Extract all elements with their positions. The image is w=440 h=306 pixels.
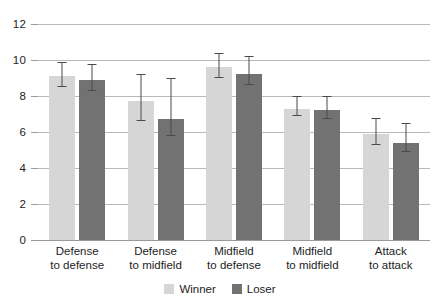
- error-bar: [297, 96, 298, 116]
- error-bar: [375, 118, 376, 145]
- y-axis-tick-mark-12: [31, 24, 38, 25]
- y-axis-tick-12: 12: [0, 18, 26, 30]
- legend-label-loser: Loser: [247, 283, 276, 295]
- category-label: Midfieldto defense: [197, 244, 271, 272]
- y-axis-tick-4: 4: [0, 162, 26, 174]
- error-bar-cap-bottom: [166, 135, 175, 136]
- category-label: Defenseto midfield: [119, 244, 193, 272]
- bar-winner[interactable]: [206, 67, 232, 240]
- error-bar: [62, 62, 63, 87]
- legend-swatch-winner: [164, 284, 174, 294]
- error-bar: [170, 78, 171, 136]
- error-bar-cap-bottom: [214, 77, 223, 78]
- bar-slot-winner: [284, 24, 310, 240]
- category-axis-labels: Defenseto defenseDefenseto midfieldMidfi…: [38, 244, 430, 272]
- error-bar: [218, 53, 219, 78]
- error-bar-cap-top: [58, 62, 67, 63]
- category-label-line2: to attack: [354, 258, 428, 272]
- bar-group: [125, 24, 187, 240]
- y-axis-tick-mark-6: [31, 132, 38, 133]
- category-label: Defenseto defense: [40, 244, 114, 272]
- bar-loser[interactable]: [314, 110, 340, 240]
- category-label-line1: Attack: [354, 244, 428, 258]
- y-axis-tick-mark-4: [31, 168, 38, 169]
- error-bar-cap-top: [244, 56, 253, 57]
- error-bar-cap-top: [401, 123, 410, 124]
- category-label-line1: Defense: [119, 244, 193, 258]
- y-axis-tick-10: 10: [0, 54, 26, 66]
- bar-group: [46, 24, 108, 240]
- error-bar: [327, 96, 328, 119]
- category-label: Midfieldto midfield: [275, 244, 349, 272]
- axis-baseline: [38, 240, 430, 241]
- category-label-line1: Defense: [40, 244, 114, 258]
- bar-slot-loser: [79, 24, 105, 240]
- bar-loser[interactable]: [393, 143, 419, 240]
- error-bar-cap-top: [293, 96, 302, 97]
- error-bar-cap-bottom: [323, 118, 332, 119]
- y-axis-tick-2: 2: [0, 198, 26, 210]
- category-label-line2: to defense: [40, 258, 114, 272]
- y-axis-tick-mark-10: [31, 60, 38, 61]
- bar-slot-winner: [206, 24, 232, 240]
- bar-slot-loser: [158, 24, 184, 240]
- bar-group: [281, 24, 343, 240]
- bar-winner[interactable]: [49, 76, 75, 240]
- error-bar-cap-top: [323, 96, 332, 97]
- bar-slot-winner: [49, 24, 75, 240]
- bar-slot-loser: [314, 24, 340, 240]
- bar-loser[interactable]: [236, 74, 262, 240]
- error-bar-cap-top: [166, 78, 175, 79]
- error-bar: [92, 64, 93, 91]
- bar-chart: 024681012 Defenseto defenseDefenseto mid…: [0, 0, 440, 306]
- bar-group: [360, 24, 422, 240]
- chart-legend: Winner Loser: [0, 283, 440, 295]
- legend-swatch-loser: [232, 284, 242, 294]
- y-axis-tick-mark-0: [31, 240, 38, 241]
- error-bar-cap-top: [371, 118, 380, 119]
- legend-label-winner: Winner: [179, 283, 215, 295]
- bar-group: [203, 24, 265, 240]
- bar-winner[interactable]: [363, 134, 389, 240]
- error-bar-cap-bottom: [401, 151, 410, 152]
- y-axis-tick-mark-8: [31, 96, 38, 97]
- category-label-line2: to midfield: [275, 258, 349, 272]
- error-bar-cap-top: [214, 53, 223, 54]
- error-bar: [248, 56, 249, 85]
- bar-winner[interactable]: [284, 109, 310, 240]
- bar-winner[interactable]: [128, 101, 154, 240]
- bar-slot-winner: [128, 24, 154, 240]
- category-label-line2: to defense: [197, 258, 271, 272]
- error-bar-cap-bottom: [244, 84, 253, 85]
- error-bar: [405, 123, 406, 152]
- bar-loser[interactable]: [158, 119, 184, 240]
- error-bar-cap-top: [136, 74, 145, 75]
- category-label: Attackto attack: [354, 244, 428, 272]
- error-bar-cap-bottom: [88, 90, 97, 91]
- error-bar-cap-top: [88, 64, 97, 65]
- bar-slot-loser: [236, 24, 262, 240]
- bar-slot-winner: [363, 24, 389, 240]
- bar-groups: [38, 24, 430, 240]
- error-bar-cap-bottom: [293, 115, 302, 116]
- y-axis-tick-mark-2: [31, 204, 38, 205]
- bar-slot-loser: [393, 24, 419, 240]
- y-axis-tick-0: 0: [0, 234, 26, 246]
- legend-item-loser: Loser: [232, 283, 276, 295]
- error-bar-cap-bottom: [371, 144, 380, 145]
- y-axis-tick-6: 6: [0, 126, 26, 138]
- y-axis-tick-8: 8: [0, 90, 26, 102]
- error-bar-cap-bottom: [58, 86, 67, 87]
- legend-item-winner: Winner: [164, 283, 215, 295]
- error-bar-cap-bottom: [136, 120, 145, 121]
- error-bar: [140, 74, 141, 121]
- category-label-line1: Midfield: [275, 244, 349, 258]
- category-label-line1: Midfield: [197, 244, 271, 258]
- category-label-line2: to midfield: [119, 258, 193, 272]
- plot-area: 024681012: [38, 24, 430, 240]
- bar-loser[interactable]: [79, 80, 105, 240]
